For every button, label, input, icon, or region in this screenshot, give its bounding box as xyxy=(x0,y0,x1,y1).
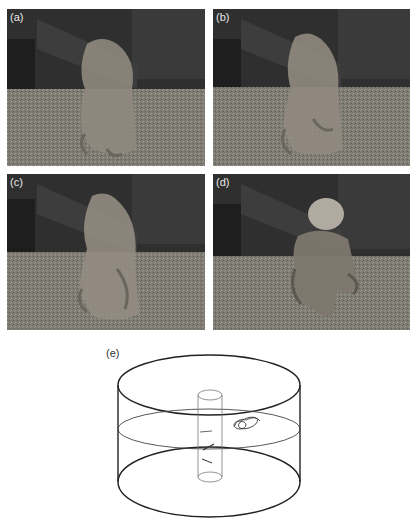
photo-panel-c: (c) xyxy=(7,174,205,330)
photo-panel-a: (a) xyxy=(7,9,205,166)
cylinder-tank-drawing xyxy=(90,335,340,525)
octopus-photo-c xyxy=(7,174,205,330)
panel-label-a: (a) xyxy=(10,11,23,23)
octopus-photo-d xyxy=(213,174,410,330)
panel-label-c: (c) xyxy=(10,176,23,188)
photo-panel-d: (d) xyxy=(213,174,410,330)
panel-label-d: (d) xyxy=(216,176,229,188)
photo-panel-b: (b) xyxy=(213,9,410,166)
panel-label-b: (b) xyxy=(216,11,229,23)
tank-diagram: (e) xyxy=(90,335,340,525)
octopus-photo-b xyxy=(213,9,410,166)
panel-label-e: (e) xyxy=(106,347,119,359)
octopus-photo-a xyxy=(7,9,205,166)
